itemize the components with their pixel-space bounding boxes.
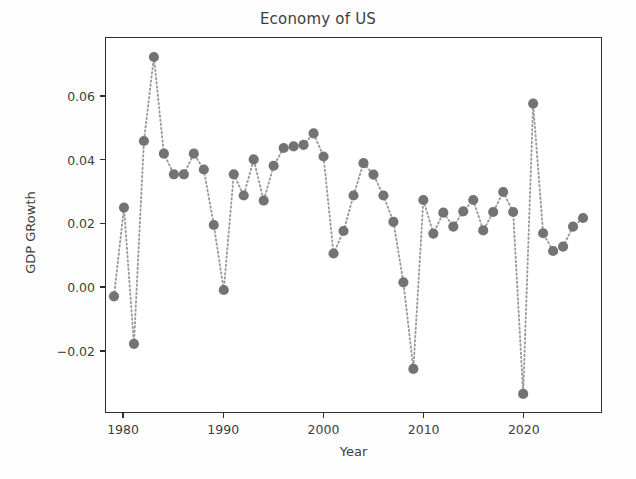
x-tick-mark (223, 413, 224, 418)
x-tick-label: 2010 (389, 422, 459, 437)
y-tick-label: 0.02 (33, 216, 95, 231)
y-tick-label: 0.00 (33, 280, 95, 295)
data-point[interactable] (159, 149, 169, 159)
y-tick-label: 0.04 (33, 152, 95, 167)
data-point[interactable] (378, 190, 388, 200)
x-tick-mark (423, 413, 424, 418)
data-point[interactable] (428, 228, 438, 238)
data-point[interactable] (348, 190, 358, 200)
data-point[interactable] (398, 277, 408, 287)
data-point[interactable] (109, 291, 119, 301)
data-point[interactable] (249, 154, 259, 164)
x-tick-mark (122, 413, 123, 418)
data-point[interactable] (328, 248, 338, 258)
data-point[interactable] (528, 99, 538, 109)
data-point[interactable] (309, 128, 319, 138)
data-point[interactable] (488, 207, 498, 217)
series-line (114, 57, 583, 394)
data-point[interactable] (149, 52, 159, 62)
data-point[interactable] (169, 169, 179, 179)
data-point[interactable] (478, 225, 488, 235)
data-point[interactable] (538, 228, 548, 238)
plot-svg (106, 38, 601, 412)
data-point[interactable] (578, 213, 588, 223)
data-point[interactable] (508, 207, 518, 217)
x-axis-title: Year (105, 444, 602, 459)
y-tick-label: −0.02 (33, 343, 95, 358)
x-tick-mark (523, 413, 524, 418)
data-point[interactable] (209, 220, 219, 230)
data-point[interactable] (558, 241, 568, 251)
chart-title: Economy of US (0, 10, 636, 28)
data-point[interactable] (388, 217, 398, 227)
data-point[interactable] (129, 339, 139, 349)
data-point[interactable] (438, 208, 448, 218)
data-point[interactable] (368, 170, 378, 180)
data-point[interactable] (458, 206, 468, 216)
chart-figure: Economy of US −0.020.000.020.040.0619801… (0, 0, 636, 479)
data-point[interactable] (358, 158, 368, 168)
x-tick-label: 1980 (88, 422, 158, 437)
data-point[interactable] (229, 169, 239, 179)
data-point[interactable] (548, 246, 558, 256)
y-tick-label: 0.06 (33, 88, 95, 103)
data-point[interactable] (318, 151, 328, 161)
data-point[interactable] (418, 195, 428, 205)
x-tick-label: 1990 (188, 422, 258, 437)
x-tick-mark (323, 413, 324, 418)
data-point[interactable] (219, 285, 229, 295)
data-point[interactable] (199, 164, 209, 174)
data-point[interactable] (338, 226, 348, 236)
data-point[interactable] (468, 195, 478, 205)
data-point[interactable] (289, 141, 299, 151)
x-tick-label: 2000 (288, 422, 358, 437)
data-point[interactable] (568, 222, 578, 232)
y-axis-title: GDP GRowth (23, 143, 38, 323)
data-point[interactable] (189, 149, 199, 159)
data-point[interactable] (269, 161, 279, 171)
x-tick-label: 2020 (489, 422, 559, 437)
plot-area[interactable] (105, 37, 602, 413)
data-point[interactable] (279, 143, 289, 153)
data-point[interactable] (518, 389, 528, 399)
data-point[interactable] (239, 190, 249, 200)
data-point[interactable] (498, 187, 508, 197)
data-point[interactable] (259, 196, 269, 206)
data-point[interactable] (408, 364, 418, 374)
data-point[interactable] (119, 202, 129, 212)
data-point[interactable] (139, 136, 149, 146)
data-point[interactable] (299, 140, 309, 150)
data-point[interactable] (448, 222, 458, 232)
data-point[interactable] (179, 169, 189, 179)
